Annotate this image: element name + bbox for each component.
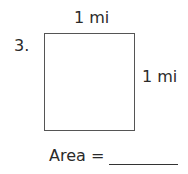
- area-answer-blank[interactable]: [109, 164, 178, 165]
- right-side-label: 1 mi: [142, 69, 177, 85]
- problem-number: 3.: [14, 38, 29, 54]
- square-shape: [44, 33, 135, 131]
- area-label: Area =: [49, 148, 104, 164]
- top-side-label: 1 mi: [74, 10, 109, 26]
